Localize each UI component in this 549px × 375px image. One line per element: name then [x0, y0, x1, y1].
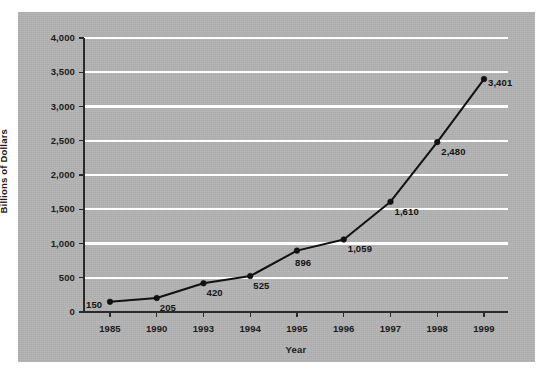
data-point-label: 150 — [86, 299, 102, 310]
y-tick-label: 2,500 — [35, 135, 75, 146]
data-point-label: 205 — [160, 302, 176, 313]
data-point-label: 1,610 — [395, 206, 419, 217]
data-point-label: 525 — [253, 280, 269, 291]
y-tick-label: 3,000 — [35, 101, 75, 112]
y-tick-label: 2,000 — [35, 169, 75, 180]
y-tick-label: 3,500 — [35, 66, 75, 77]
x-tick-label: 1997 — [366, 323, 416, 334]
chart-figure: 05001,0001,5002,0002,5003,0003,5004,000 … — [0, 0, 549, 375]
x-tick-label: 1996 — [319, 323, 369, 334]
y-tick-label: 1,000 — [35, 238, 75, 249]
data-point-label: 1,059 — [348, 243, 372, 254]
x-tick-label: 1994 — [225, 323, 275, 334]
data-point-label: 2,480 — [441, 146, 465, 157]
x-axis-title: Year — [84, 344, 508, 355]
x-tick-label: 1993 — [179, 323, 229, 334]
x-tick-label: 1995 — [272, 323, 322, 334]
y-tick-label: 0 — [35, 306, 75, 317]
x-tick-label: 1998 — [412, 323, 462, 334]
data-point-label: 896 — [295, 257, 311, 268]
y-tick-label: 500 — [35, 272, 75, 283]
data-point-label: 3,401 — [488, 77, 512, 88]
x-tick-label: 1985 — [85, 323, 135, 334]
y-tick-label: 1,500 — [35, 203, 75, 214]
y-tick-label: 4,000 — [35, 32, 75, 43]
x-tick-label: 1999 — [459, 323, 509, 334]
x-tick-label: 1990 — [132, 323, 182, 334]
data-point-label: 420 — [207, 287, 223, 298]
y-axis-title: Billions of Dollars — [0, 134, 9, 214]
